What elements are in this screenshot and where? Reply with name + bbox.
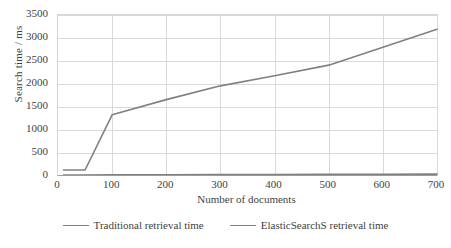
x-axis-tick-label: 100 bbox=[91, 178, 131, 191]
x-axis-tick-labels: 0100200300400500600700 bbox=[0, 178, 451, 194]
gridlines-vertical bbox=[113, 15, 438, 176]
gridlines-horizontal bbox=[58, 16, 437, 154]
x-axis-tick-label: 500 bbox=[308, 178, 348, 191]
y-axis-tick-labels: 0500100015002000250030003500 bbox=[0, 0, 52, 248]
y-axis-tick-label: 2500 bbox=[0, 54, 48, 65]
x-axis-tick-label: 400 bbox=[254, 178, 294, 191]
legend-item[interactable]: ElasticSearchS retrieval time bbox=[230, 219, 389, 231]
x-axis-tick-label: 700 bbox=[416, 178, 451, 191]
plot-area bbox=[57, 14, 438, 176]
series-line bbox=[63, 29, 437, 170]
x-axis-tick-label: 600 bbox=[362, 178, 402, 191]
chart-legend: Traditional retrieval timeElasticSearchS… bbox=[0, 219, 451, 231]
legend-label: ElasticSearchS retrieval time bbox=[261, 219, 389, 231]
legend-label: Traditional retrieval time bbox=[94, 219, 204, 231]
series-line bbox=[63, 174, 437, 175]
line-chart: Search time / ms 05001000150020002500300… bbox=[0, 0, 451, 248]
y-axis-tick-label: 3500 bbox=[0, 8, 48, 19]
y-axis-tick-label: 3000 bbox=[0, 31, 48, 42]
y-axis-tick-label: 2000 bbox=[0, 77, 48, 88]
legend-line-swatch bbox=[230, 225, 256, 226]
y-axis-tick-label: 500 bbox=[0, 146, 48, 157]
x-axis-tick-label: 200 bbox=[145, 178, 185, 191]
legend-line-swatch bbox=[63, 225, 89, 226]
y-axis-tick-label: 1500 bbox=[0, 100, 48, 111]
x-axis-tick-label: 300 bbox=[199, 178, 239, 191]
x-axis-tick-label: 0 bbox=[37, 178, 77, 191]
plot-svg bbox=[58, 15, 437, 176]
y-axis-tick-label: 1000 bbox=[0, 123, 48, 134]
legend-item[interactable]: Traditional retrieval time bbox=[63, 219, 204, 231]
x-axis-title: Number of documents bbox=[57, 193, 436, 205]
